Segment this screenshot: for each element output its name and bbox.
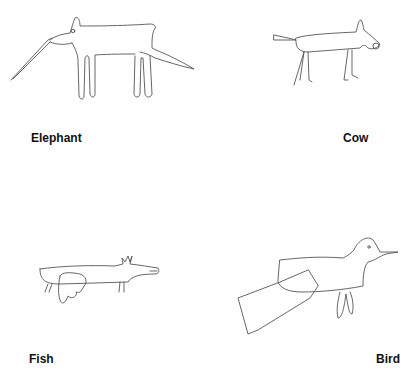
label-fish: Fish xyxy=(29,352,54,366)
elephant-drawing-icon xyxy=(0,0,208,190)
label-elephant: Elephant xyxy=(31,131,82,145)
cow-drawing-icon xyxy=(208,0,416,190)
panel-bird: Bird xyxy=(208,190,416,380)
panel-cow: Cow xyxy=(208,0,416,190)
panel-elephant: Elephant xyxy=(0,0,208,190)
panel-fish: Fish xyxy=(0,190,208,380)
label-bird: Bird xyxy=(376,352,400,366)
label-cow: Cow xyxy=(343,131,368,145)
